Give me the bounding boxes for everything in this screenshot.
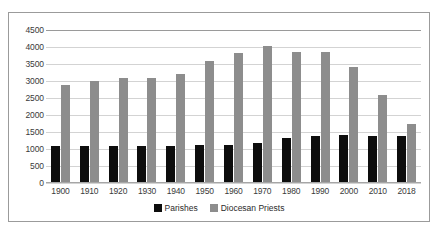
y-tick-label-2500: 2500 — [10, 93, 44, 103]
gridline-0 — [46, 183, 421, 184]
x-tick-label-1940: 1940 — [161, 186, 190, 200]
bar-group-1920 — [104, 30, 133, 183]
bar-diocesan-priests-2018 — [407, 124, 416, 184]
bar-diocesan-priests-1960 — [234, 53, 243, 183]
x-tick-label-2010: 2010 — [363, 186, 392, 200]
bar-group-2000 — [334, 30, 363, 183]
bar-group-1960 — [219, 30, 248, 183]
bar-group-1990 — [306, 30, 335, 183]
x-tick-label-1960: 1960 — [219, 186, 248, 200]
x-tick-label-1990: 1990 — [306, 186, 335, 200]
bar-chart-figure: 050010001500200025003000350040004500 190… — [8, 12, 430, 222]
bar-diocesan-priests-1930 — [147, 78, 156, 183]
y-tick-label-0: 0 — [10, 178, 44, 188]
bar-group-1950 — [190, 30, 219, 183]
y-tick-label-4000: 4000 — [10, 42, 44, 52]
bar-parishes-1930 — [137, 146, 146, 183]
bar-parishes-1900 — [51, 146, 60, 183]
bar-parishes-1940 — [166, 146, 175, 183]
bar-group-1910 — [75, 30, 104, 183]
legend-item-diocesan-priests: Diocesan Priests — [210, 203, 285, 213]
y-tick-label-3500: 3500 — [10, 59, 44, 69]
x-tick-label-1980: 1980 — [277, 186, 306, 200]
x-axis-line — [46, 182, 421, 183]
y-tick-label-2000: 2000 — [10, 110, 44, 120]
bar-group-2018 — [392, 30, 421, 183]
legend-label: Parishes — [165, 203, 198, 213]
x-tick-label-1950: 1950 — [190, 186, 219, 200]
bar-diocesan-priests-1920 — [119, 78, 128, 183]
bar-diocesan-priests-1950 — [205, 61, 214, 183]
bar-diocesan-priests-1980 — [292, 52, 301, 183]
bar-diocesan-priests-1990 — [321, 52, 330, 183]
x-tick-label-1910: 1910 — [75, 186, 104, 200]
y-tick-label-500: 500 — [10, 161, 44, 171]
bar-group-2010 — [363, 30, 392, 183]
x-tick-label-2000: 2000 — [334, 186, 363, 200]
bar-diocesan-priests-2000 — [349, 67, 358, 183]
x-tick-label-1900: 1900 — [46, 186, 75, 200]
y-tick-label-4500: 4500 — [10, 25, 44, 35]
bar-diocesan-priests-1900 — [61, 85, 70, 183]
bar-diocesan-priests-1970 — [263, 46, 272, 183]
plot-area — [46, 30, 421, 183]
bar-diocesan-priests-2010 — [378, 95, 387, 183]
bar-parishes-1990 — [311, 136, 320, 183]
bar-parishes-1910 — [80, 146, 89, 183]
y-tick-label-1500: 1500 — [10, 127, 44, 137]
chart-legend: ParishesDiocesan Priests — [9, 203, 429, 213]
bar-parishes-1950 — [195, 145, 204, 183]
bar-group-1970 — [248, 30, 277, 183]
bar-group-1940 — [161, 30, 190, 183]
bar-parishes-1960 — [224, 145, 233, 183]
bar-parishes-2010 — [368, 136, 377, 183]
bar-parishes-1980 — [282, 138, 291, 183]
x-tick-label-1930: 1930 — [133, 186, 162, 200]
bar-group-1900 — [46, 30, 75, 183]
x-tick-label-1920: 1920 — [104, 186, 133, 200]
bar-diocesan-priests-1940 — [176, 74, 185, 183]
bar-parishes-2000 — [339, 135, 348, 183]
legend-label: Diocesan Priests — [221, 203, 285, 213]
bar-parishes-1970 — [253, 143, 262, 183]
x-tick-label-2018: 2018 — [392, 186, 421, 200]
bar-group-1980 — [277, 30, 306, 183]
bars-layer — [46, 30, 421, 183]
bar-diocesan-priests-1910 — [90, 81, 99, 183]
y-axis-tick-labels: 050010001500200025003000350040004500 — [9, 30, 44, 183]
legend-item-parishes: Parishes — [154, 203, 198, 213]
bar-parishes-2018 — [397, 136, 406, 183]
bar-group-1930 — [133, 30, 162, 183]
y-tick-label-3000: 3000 — [10, 76, 44, 86]
legend-swatch-icon — [210, 204, 218, 212]
bar-parishes-1920 — [109, 146, 118, 183]
x-tick-label-1970: 1970 — [248, 186, 277, 200]
legend-swatch-icon — [154, 204, 162, 212]
x-axis-tick-labels: 1900191019201930194019501960197019801990… — [46, 186, 421, 200]
y-tick-label-1000: 1000 — [10, 144, 44, 154]
